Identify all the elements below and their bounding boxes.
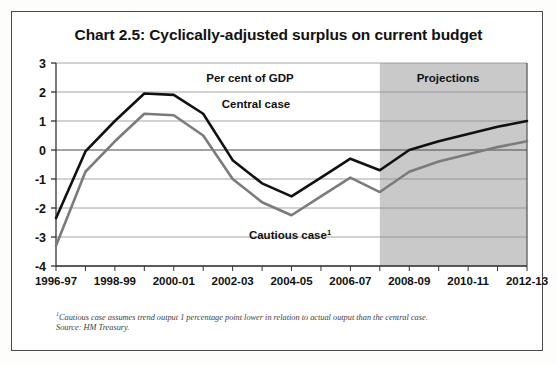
- chart-frame-border: [11, 11, 543, 351]
- chart-title: Chart 2.5: Cyclically-adjusted surplus o…: [0, 26, 557, 44]
- chart-page: Chart 2.5: Cyclically-adjusted surplus o…: [0, 0, 557, 365]
- footnote-note-text: Cautious case assumes trend output 1 per…: [59, 313, 428, 322]
- footnote-source: Source: HM Treasury.: [56, 322, 526, 334]
- footnote-source-text: Source: HM Treasury.: [56, 323, 129, 332]
